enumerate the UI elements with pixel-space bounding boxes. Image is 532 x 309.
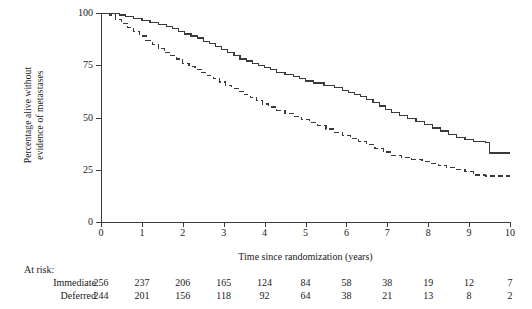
x-axis-title: Time since randomization (years): [101, 251, 510, 262]
x-tick-label: 1: [139, 228, 144, 238]
at-risk-value: 92: [260, 290, 270, 301]
at-risk-value: 12: [464, 277, 474, 288]
y-tick-label: 25: [83, 165, 93, 175]
x-tick-label: 9: [467, 228, 472, 238]
x-tick-label: 10: [505, 228, 515, 238]
at-risk-value: 206: [175, 277, 190, 288]
y-axis-title: Percentage alive without evidence of met…: [22, 20, 46, 210]
y-tick-label: 100: [78, 8, 93, 18]
at-risk-value: 19: [423, 277, 433, 288]
x-tick-label: 0: [99, 228, 104, 238]
x-tick-label: 8: [426, 228, 431, 238]
at-risk-title: At risk:: [24, 264, 54, 275]
at-risk-value: 244: [94, 290, 109, 301]
at-risk-value: 124: [257, 277, 272, 288]
plot-area: 0255075100 012345678910: [101, 13, 510, 222]
x-tick-label: 6: [344, 228, 349, 238]
at-risk-value: 21: [382, 290, 392, 301]
x-tick-label: 4: [262, 228, 267, 238]
at-risk-value: 58: [341, 277, 351, 288]
at-risk-value: 165: [216, 277, 231, 288]
at-risk-value: 156: [175, 290, 190, 301]
at-risk-row: Immediate25623720616512484583819127: [0, 277, 532, 290]
at-risk-value: 237: [134, 277, 149, 288]
at-risk-value: 84: [301, 277, 311, 288]
at-risk-value: 8: [467, 290, 472, 301]
at-risk-value: 64: [301, 290, 311, 301]
at-risk-value: 7: [508, 277, 513, 288]
x-tick-label: 7: [385, 228, 390, 238]
at-risk-value: 38: [341, 290, 351, 301]
x-tick-label: 3: [221, 228, 226, 238]
at-risk-table: Immediate25623720616512484583819127Defer…: [0, 277, 532, 303]
y-tick-label: 0: [88, 217, 93, 227]
survival-curves: [101, 13, 510, 222]
at-risk-row-label: Deferred: [0, 290, 96, 301]
at-risk-row-label: Immediate: [0, 277, 96, 288]
y-tick-label: 75: [83, 60, 93, 70]
at-risk-value: 118: [216, 290, 231, 301]
at-risk-row: Deferred244201156118926438211382: [0, 290, 532, 303]
y-tick-label: 50: [83, 113, 93, 123]
x-tick-label: 5: [303, 228, 308, 238]
at-risk-value: 13: [423, 290, 433, 301]
survival-chart-figure: Percentage alive without evidence of met…: [0, 0, 532, 309]
curve-immediate: [101, 13, 510, 153]
at-risk-value: 38: [382, 277, 392, 288]
x-tick-label: 2: [180, 228, 185, 238]
at-risk-value: 2: [508, 290, 513, 301]
at-risk-value: 201: [134, 290, 149, 301]
curve-deferred: [101, 13, 510, 176]
at-risk-value: 256: [94, 277, 109, 288]
